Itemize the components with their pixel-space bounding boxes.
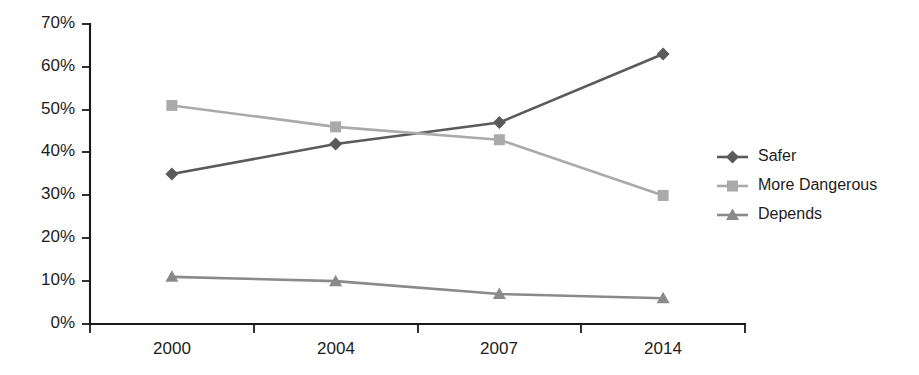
y-tick-label: 50% (41, 99, 75, 118)
y-tick-label: 10% (41, 270, 75, 289)
square-marker-icon (727, 181, 738, 192)
square-marker-icon (166, 100, 177, 111)
square-marker-icon (330, 121, 341, 132)
square-marker-icon (494, 134, 505, 145)
legend-label: Depends (758, 205, 822, 222)
x-tick-label: 2014 (644, 339, 682, 358)
y-tick-label: 60% (41, 56, 75, 75)
x-tick-label: 2000 (153, 339, 191, 358)
legend-label: More Dangerous (758, 176, 877, 193)
x-tick-label: 2007 (480, 339, 518, 358)
legend-label: Safer (758, 147, 797, 164)
y-tick-label: 70% (41, 13, 75, 32)
x-tick-label: 2004 (317, 339, 355, 358)
y-tick-label: 0% (50, 313, 75, 332)
line-chart-figure: 70% 60% 50% 40% 30% 20% 10% 0% 2000 2004… (0, 0, 919, 375)
chart-canvas: 70% 60% 50% 40% 30% 20% 10% 0% 2000 2004… (0, 0, 919, 375)
square-marker-icon (658, 190, 669, 201)
y-tick-label: 30% (41, 184, 75, 203)
y-tick-label: 40% (41, 141, 75, 160)
y-tick-label: 20% (41, 227, 75, 246)
